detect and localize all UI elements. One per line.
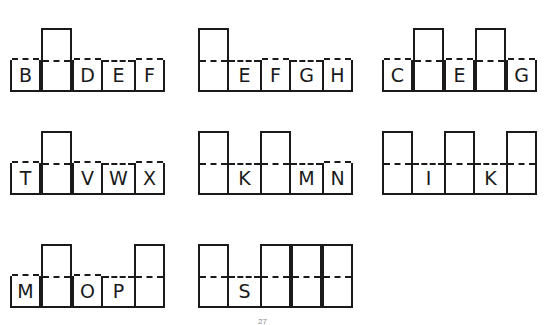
dashed-line (136, 161, 163, 163)
dashed-line (136, 276, 163, 278)
cell-letter: M (12, 280, 39, 302)
blank-cell (260, 244, 291, 308)
letter-cell: I (413, 163, 444, 195)
dashed-line (12, 161, 39, 163)
dashed-line (508, 58, 535, 60)
blank-cell (134, 244, 165, 308)
dashed-line (200, 163, 227, 165)
letter-sequence-puzzle: MOP (10, 228, 165, 308)
letter-cell: V (72, 163, 103, 195)
cell-letter: I (413, 167, 444, 189)
dashed-line (477, 60, 504, 62)
dashed-line (262, 276, 289, 278)
letter-cell: F (260, 60, 291, 92)
dashed-line (12, 58, 39, 60)
letter-cell: T (10, 163, 41, 195)
cell-letter: F (262, 64, 289, 86)
letter-cell: F (134, 60, 165, 92)
blank-cell (198, 131, 229, 195)
dashed-line (103, 60, 134, 62)
cell-letter: F (136, 64, 163, 86)
dashed-line (200, 276, 227, 278)
letter-cell: D (72, 60, 103, 92)
cell-letter: V (74, 167, 101, 189)
blank-cell (198, 28, 229, 92)
dashed-line (413, 163, 444, 165)
letter-sequence-puzzle: EFGH (198, 12, 353, 92)
letter-cell: M (10, 276, 41, 308)
cell-letter: G (508, 64, 535, 86)
dashed-line (12, 274, 39, 276)
letter-sequence-puzzle: KMN (198, 115, 353, 195)
letter-cell: K (229, 163, 260, 195)
dashed-line (324, 161, 351, 163)
dashed-line (446, 58, 473, 60)
dashed-line (74, 274, 101, 276)
page-number: 27 (258, 317, 267, 325)
cell-letter: G (291, 64, 322, 86)
cell-letter: W (103, 167, 134, 189)
dashed-line (384, 163, 411, 165)
dashed-line (229, 276, 260, 278)
dashed-line (43, 60, 70, 62)
blank-cell (413, 28, 444, 92)
cell-letter: N (324, 167, 351, 189)
cell-letter: D (74, 64, 101, 86)
cell-letter: M (291, 167, 322, 189)
letter-cell: H (322, 60, 353, 92)
dashed-line (291, 60, 322, 62)
dashed-line (43, 163, 70, 165)
letter-sequence-puzzle: TVWX (10, 115, 165, 195)
cell-letter: X (136, 167, 163, 189)
dashed-line (43, 276, 70, 278)
dashed-line (293, 276, 320, 278)
blank-cell (382, 131, 413, 195)
letter-sequence-puzzle: IK (382, 115, 537, 195)
dashed-line (475, 163, 506, 165)
letter-cell: B (10, 60, 41, 92)
letter-cell: C (382, 60, 413, 92)
cell-letter: E (229, 64, 260, 86)
blank-cell (41, 28, 72, 92)
letter-cell: W (103, 163, 134, 195)
blank-cell (198, 244, 229, 308)
dashed-line (103, 163, 134, 165)
letter-cell: E (229, 60, 260, 92)
cell-letter: K (229, 167, 260, 189)
blank-cell (291, 244, 322, 308)
cell-letter: E (446, 64, 473, 86)
cell-letter: P (103, 280, 134, 302)
cell-letter: T (12, 167, 39, 189)
blank-cell (41, 131, 72, 195)
letter-cell: S (229, 276, 260, 308)
letter-cell: E (444, 60, 475, 92)
dashed-line (324, 58, 351, 60)
letter-cell: M (291, 163, 322, 195)
cell-letter: E (103, 64, 134, 86)
dashed-line (103, 276, 134, 278)
blank-cell (506, 131, 537, 195)
dashed-line (415, 60, 442, 62)
letter-cell: G (506, 60, 537, 92)
dashed-line (200, 60, 227, 62)
dashed-line (291, 163, 322, 165)
letter-cell: E (103, 60, 134, 92)
blank-cell (41, 244, 72, 308)
cell-letter: H (324, 64, 351, 86)
dashed-line (508, 163, 535, 165)
blank-cell (260, 131, 291, 195)
letter-cell: N (322, 163, 353, 195)
dashed-line (74, 161, 101, 163)
letter-sequence-puzzle: CEG (382, 12, 537, 92)
dashed-line (229, 60, 260, 62)
letter-cell: O (72, 276, 103, 308)
letter-cell: G (291, 60, 322, 92)
cell-letter: C (384, 64, 411, 86)
cell-letter: O (74, 280, 101, 302)
letter-cell: X (134, 163, 165, 195)
dashed-line (74, 58, 101, 60)
letter-cell: K (475, 163, 506, 195)
cell-letter: S (229, 280, 260, 302)
blank-cell (475, 28, 506, 92)
dashed-line (446, 163, 473, 165)
